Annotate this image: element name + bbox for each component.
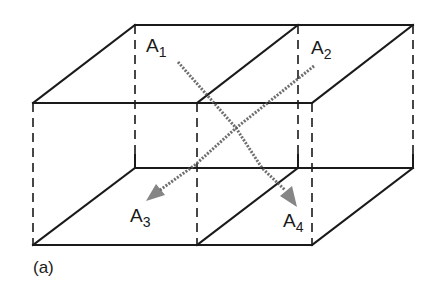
label-a3: A3	[130, 206, 150, 229]
arrow-a2-to-a3	[146, 66, 314, 201]
solid-edges	[33, 25, 413, 245]
two-cell-diagram	[0, 0, 438, 288]
label-a1: A1	[146, 36, 166, 59]
figure-caption: (a)	[33, 258, 54, 278]
label-a2: A2	[311, 38, 331, 61]
arrow-a1-to-a4	[178, 62, 297, 207]
label-a4: A4	[283, 211, 303, 234]
